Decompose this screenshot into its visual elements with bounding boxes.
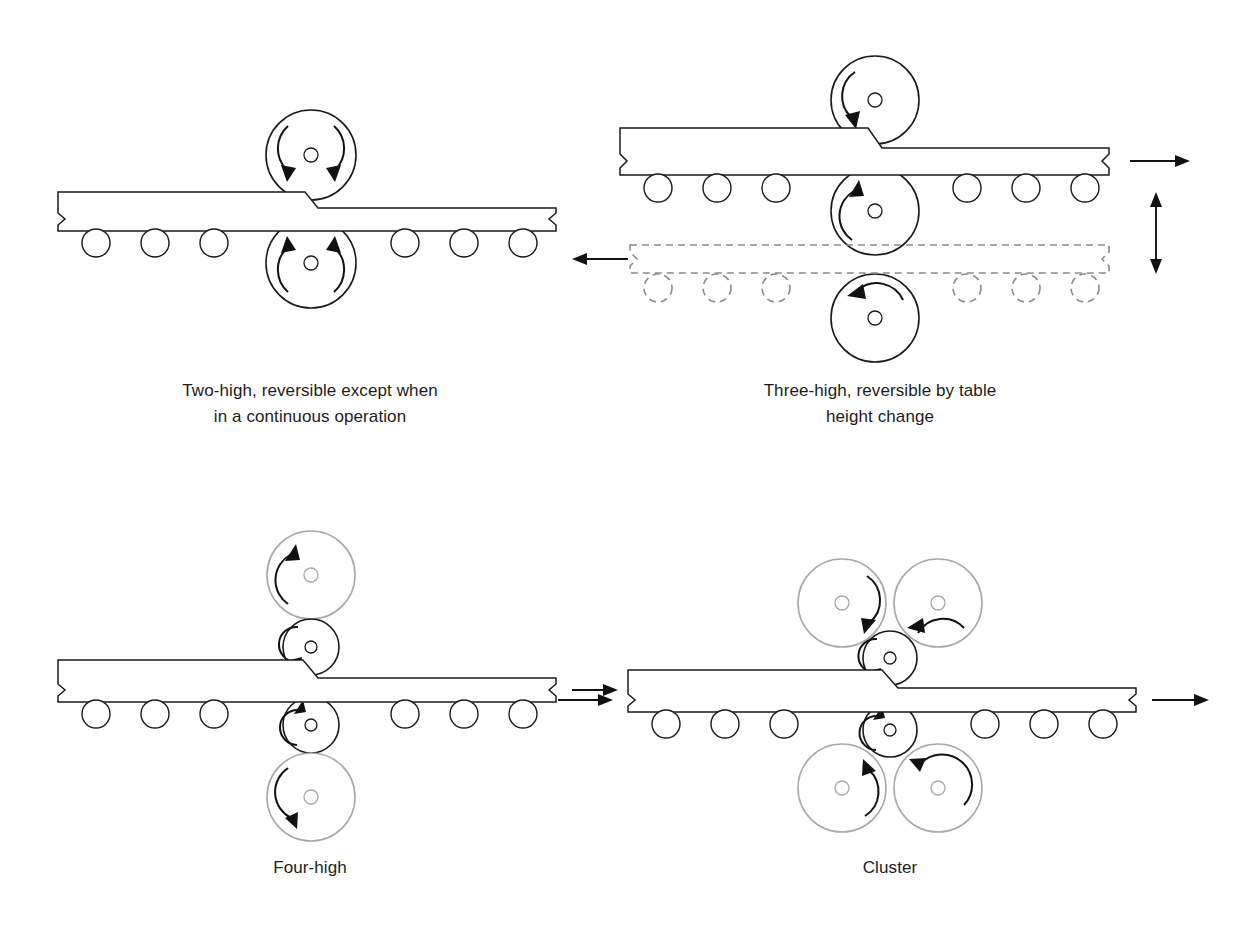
backup-roll-top-right: [894, 559, 982, 647]
direction-arrow-right: [1130, 155, 1190, 167]
panel-two-high: Two-high, reversible except when in a co…: [0, 0, 620, 370]
caption-three-high: Three-high, reversible by table height c…: [700, 378, 1060, 430]
rolling-mill-figure: Two-high, reversible except when in a co…: [0, 0, 1246, 934]
caption-line: Three-high, reversible by table: [700, 378, 1060, 404]
workpiece-slab: [620, 128, 1109, 175]
backup-roll-top-left: [798, 559, 886, 647]
caption-line: Four-high: [180, 855, 440, 881]
direction-arrow-entry: [558, 694, 613, 706]
caption-two-high: Two-high, reversible except when in a co…: [120, 378, 500, 430]
work-roll-top: [266, 110, 356, 200]
table-height-arrow: [1150, 192, 1162, 274]
caption-line: Two-high, reversible except when: [120, 378, 500, 404]
backup-roll-bottom: [267, 753, 355, 841]
roll-middle: [831, 167, 919, 255]
backup-roll-bottom-right: [894, 744, 982, 832]
workpiece-slab: [628, 670, 1136, 712]
caption-line: height change: [700, 404, 1060, 430]
three-high-drawing: [590, 0, 1246, 370]
backup-roll-top: [267, 531, 355, 619]
four-high-drawing: [0, 500, 640, 840]
caption-four-high: Four-high: [180, 855, 440, 881]
caption-cluster: Cluster: [780, 855, 1000, 881]
caption-line: in a continuous operation: [120, 404, 500, 430]
backup-roll-bottom-left: [798, 744, 886, 832]
caption-line: Cluster: [780, 855, 1000, 881]
panel-four-high: Four-high: [0, 500, 640, 840]
two-high-drawing: [0, 0, 620, 370]
cluster-drawing: [560, 500, 1246, 840]
panel-three-high: Three-high, reversible by table height c…: [590, 0, 1246, 370]
work-roll-bottom: [280, 697, 339, 753]
direction-arrow-exit: [1152, 694, 1209, 706]
workpiece-slab: [58, 192, 556, 231]
workpiece-slab: [58, 660, 556, 702]
panel-cluster: Cluster: [560, 500, 1246, 840]
roll-bottom: [831, 274, 919, 362]
